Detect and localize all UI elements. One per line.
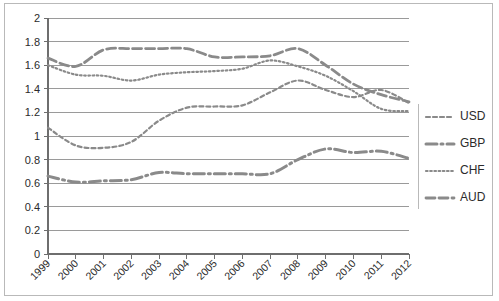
y-tick-label: 0.4 xyxy=(25,201,40,213)
legend-label-usd[interactable]: USD xyxy=(460,109,486,123)
y-tick-label: 1.4 xyxy=(25,83,40,95)
axes xyxy=(44,18,409,259)
x-tick-label: 2005 xyxy=(194,257,219,282)
x-tick-label: 2008 xyxy=(277,257,302,282)
x-tick-label: 2010 xyxy=(333,257,358,282)
y-tick-label: 0.2 xyxy=(25,224,40,236)
series-line-usd xyxy=(48,81,409,149)
chart-svg: 00.20.40.60.811.21.41.61.82 199920002001… xyxy=(5,4,494,297)
y-axis-tick-labels: 00.20.40.60.811.21.41.61.82 xyxy=(25,12,40,260)
y-tick-label: 2 xyxy=(34,12,40,24)
x-axis-tick-labels: 1999200020012002200320042005200620072008… xyxy=(27,257,413,282)
legend-label-gbp[interactable]: GBP xyxy=(460,136,485,150)
x-tick-label: 2009 xyxy=(305,257,330,282)
x-tick-label: 2004 xyxy=(166,257,191,282)
x-tick-label: 2006 xyxy=(222,257,247,282)
y-tick-label: 1 xyxy=(34,130,40,142)
y-tick-label: 1.8 xyxy=(25,36,40,48)
chart-container: 00.20.40.60.811.21.41.61.82 199920002001… xyxy=(4,3,493,296)
legend-label-aud[interactable]: AUD xyxy=(460,190,486,204)
legend-label-chf[interactable]: CHF xyxy=(460,163,485,177)
y-tick-label: 0.8 xyxy=(25,154,40,166)
x-tick-label: 1999 xyxy=(27,257,52,282)
x-tick-label: 2001 xyxy=(83,257,108,282)
y-tick-label: 0 xyxy=(34,248,40,260)
y-tick-label: 0.6 xyxy=(25,177,40,189)
x-tick-label: 2012 xyxy=(388,257,413,282)
series-line-gbp xyxy=(48,149,409,182)
y-tick-label: 1.2 xyxy=(25,106,40,118)
plot-area: 00.20.40.60.811.21.41.61.82 199920002001… xyxy=(5,4,494,297)
x-tick-label: 2002 xyxy=(111,257,136,282)
data-series-group xyxy=(48,48,409,182)
x-tick-label: 2003 xyxy=(138,257,163,282)
gridlines xyxy=(48,18,409,254)
chart-legend: USDGBPCHFAUD xyxy=(418,104,486,209)
x-tick-label: 2007 xyxy=(250,257,275,282)
x-tick-label: 2000 xyxy=(55,257,80,282)
y-tick-label: 1.6 xyxy=(25,59,40,71)
x-tick-label: 2011 xyxy=(361,257,386,282)
